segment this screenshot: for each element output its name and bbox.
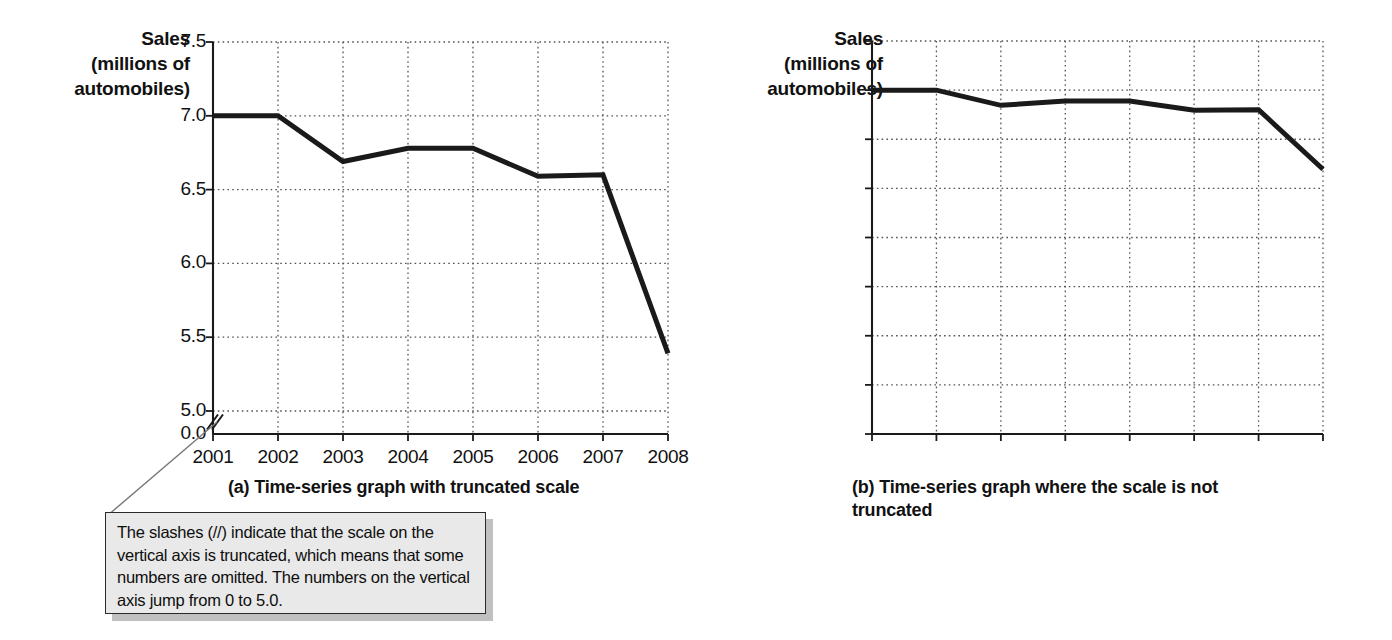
callout-note-text: The slashes (//) indicate that the scale…	[117, 521, 475, 611]
callout-leader-line	[95, 420, 225, 520]
caption-b: (b) Time-series graph where the scale is…	[852, 476, 1272, 522]
figure-two-time-series-graphs: Sales (millions of automobiles) (a) Time…	[0, 0, 1392, 640]
data-series-line	[872, 90, 1323, 169]
callout-box-truncation-note: The slashes (//) indicate that the scale…	[105, 512, 486, 614]
